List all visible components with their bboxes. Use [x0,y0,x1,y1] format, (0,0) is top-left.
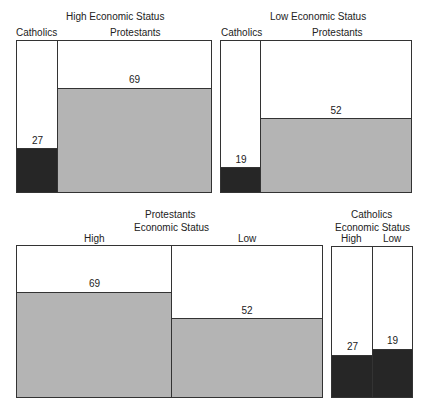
low-bar [172,318,322,397]
mosaic-box: 69 52 [16,245,323,398]
low-label: Low [238,233,256,245]
divider [171,246,172,397]
catholic-bar [221,167,261,192]
divider [260,41,261,192]
protestant-bar [58,88,211,192]
low-bar [373,349,412,397]
high-value: 27 [332,341,373,353]
low-value: 19 [373,335,412,347]
low-value: 52 [172,305,322,317]
mosaic-box: 27 19 [331,246,413,398]
mosaic-box: 27 69 [16,40,212,193]
panel-title: Low Economic Status [270,11,366,23]
high-label: High [84,233,105,245]
panel-title: Protestants [145,209,196,221]
high-value: 69 [17,278,172,290]
catholic-value: 19 [221,154,261,166]
catholic-bar [17,148,58,192]
panel-title: High Economic Status [66,11,164,23]
high-label: High [341,233,362,245]
high-bar [332,355,373,397]
low-label: Low [383,233,401,245]
high-bar [17,292,172,397]
catholic-value: 27 [17,135,58,147]
panel-subtitle: Economic Status [134,222,209,234]
protestants-label: Protestants [312,27,363,39]
mosaic-box: 19 52 [220,40,412,193]
panel-title: Catholics [351,209,392,221]
divider [372,247,373,397]
catholics-label: Catholics [221,27,262,39]
catholics-label: Catholics [16,27,57,39]
protestant-value: 69 [58,74,211,86]
protestants-label: Protestants [110,27,161,39]
protestant-value: 52 [261,105,411,117]
divider [57,41,58,192]
protestant-bar [261,118,411,192]
